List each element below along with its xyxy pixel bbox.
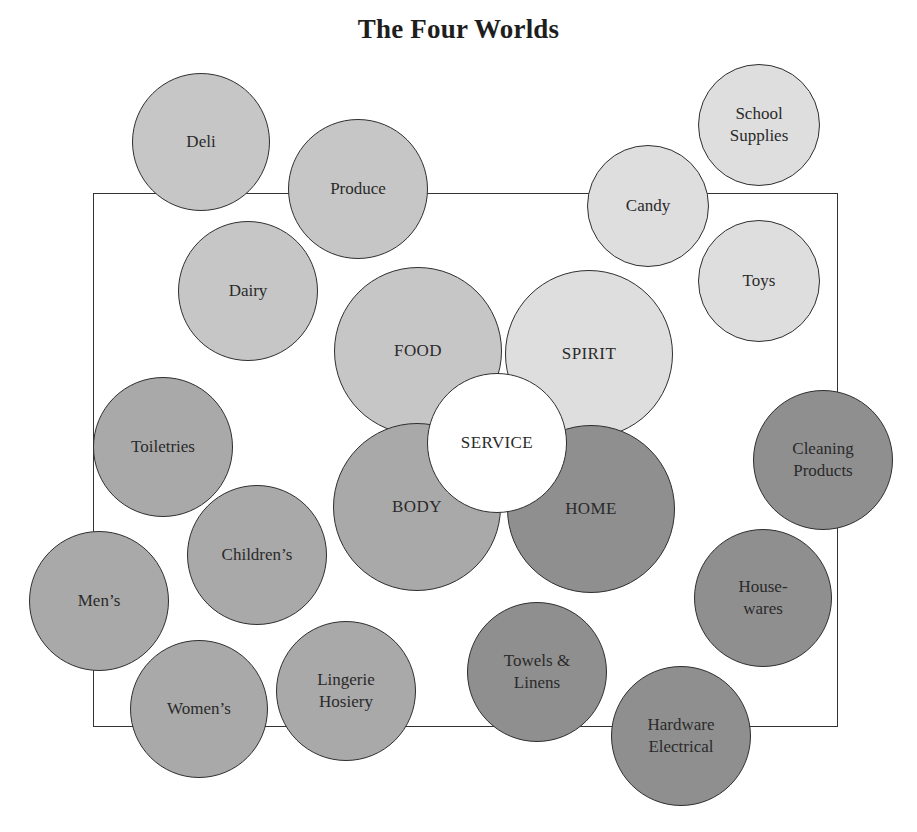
womens-bubble: Women’s	[130, 640, 268, 778]
childrens-label: Children’s	[222, 544, 293, 566]
lingerie-hosiery-bubble: Lingerie Hosiery	[276, 621, 416, 761]
childrens-bubble: Children’s	[187, 485, 327, 625]
womens-label: Women’s	[167, 698, 231, 720]
toiletries-label: Toiletries	[131, 436, 195, 458]
home-label: HOME	[565, 498, 617, 520]
deli-bubble: Deli	[132, 73, 270, 211]
candy-bubble: Candy	[587, 145, 709, 267]
cleaning-products-bubble: Cleaning Products	[753, 390, 893, 530]
towels-linens-bubble: Towels & Linens	[467, 602, 607, 742]
towels-linens-label: Towels & Linens	[504, 650, 570, 694]
housewares-bubble: House- wares	[694, 529, 832, 667]
deli-label: Deli	[186, 131, 215, 153]
mens-bubble: Men’s	[29, 531, 169, 671]
produce-label: Produce	[330, 178, 386, 200]
spirit-label: SPIRIT	[562, 343, 616, 365]
service-core-bubble: SERVICE	[427, 373, 567, 513]
lingerie-hosiery-label: Lingerie Hosiery	[317, 669, 375, 713]
diagram-title: The Four Worlds	[0, 14, 917, 45]
service-label: SERVICE	[461, 432, 533, 454]
toys-bubble: Toys	[698, 220, 820, 342]
produce-bubble: Produce	[288, 119, 428, 259]
candy-label: Candy	[626, 195, 670, 217]
hardware-electrical-bubble: Hardware Electrical	[611, 666, 751, 806]
hardware-electrical-label: Hardware Electrical	[647, 714, 714, 758]
toys-label: Toys	[743, 270, 776, 292]
dairy-label: Dairy	[229, 280, 268, 302]
cleaning-products-label: Cleaning Products	[792, 438, 853, 482]
mens-label: Men’s	[78, 590, 121, 612]
dairy-bubble: Dairy	[178, 221, 318, 361]
food-label: FOOD	[394, 340, 442, 362]
school-supplies-bubble: School Supplies	[698, 64, 820, 186]
housewares-label: House- wares	[738, 576, 787, 620]
school-supplies-label: School Supplies	[730, 103, 789, 147]
body-label: BODY	[392, 496, 442, 518]
toiletries-bubble: Toiletries	[93, 377, 233, 517]
